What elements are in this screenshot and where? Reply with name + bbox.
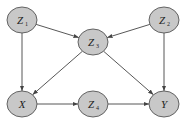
- node-x: X: [7, 91, 37, 117]
- node-label: Z: [159, 14, 166, 26]
- causal-diagram: Z1Z2Z3XZ4Y: [0, 0, 187, 125]
- edge-z3-to-x: [33, 51, 83, 95]
- node-label: X: [18, 98, 27, 110]
- node-z2: Z2: [149, 7, 179, 33]
- node-z1: Z1: [7, 7, 37, 33]
- node-y: Y: [149, 91, 179, 117]
- node-label: Z: [88, 98, 95, 110]
- node-subscript: 4: [96, 105, 99, 111]
- nodes: Z1Z2Z3XZ4Y: [7, 7, 179, 117]
- node-subscript: 2: [167, 21, 170, 27]
- node-z4: Z4: [78, 91, 108, 117]
- node-label: Z: [17, 14, 24, 26]
- node-label: Z: [88, 36, 95, 48]
- diagram-svg: Z1Z2Z3XZ4Y: [0, 0, 187, 125]
- node-subscript: 3: [96, 43, 99, 49]
- node-subscript: 1: [25, 21, 28, 27]
- edge-z1-to-z3: [36, 24, 79, 37]
- node-z3: Z3: [78, 29, 108, 55]
- edge-z3-to-y: [104, 51, 154, 95]
- edge-z2-to-z3: [107, 24, 150, 37]
